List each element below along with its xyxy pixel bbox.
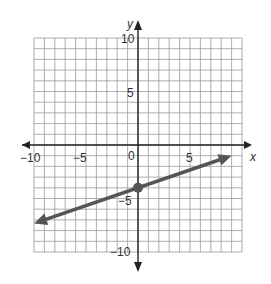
x-tick-neg5: −5: [73, 151, 87, 165]
x-axis-label: x: [249, 150, 257, 164]
y-intercept-point: [133, 183, 143, 193]
x-tick-5: 5: [186, 151, 193, 165]
y-tick-neg5: −5: [118, 194, 132, 208]
plotted-line: [44, 159, 221, 220]
x-axis-left-arrow-icon: [22, 141, 30, 149]
y-axis-down-arrow-icon: [134, 262, 142, 272]
line-right-arrow-icon: [217, 154, 231, 165]
y-tick-10: 10: [121, 32, 135, 46]
y-tick-5: 5: [127, 86, 134, 100]
y-axis-up-arrow-icon: [134, 20, 142, 30]
line-left-arrow-icon: [34, 214, 48, 225]
y-axis-label: y: [126, 17, 134, 31]
x-tick-neg10: −10: [20, 151, 41, 165]
coordinate-plane: −10 −5 0 5 10 5 −5 −10 x y: [0, 0, 271, 284]
origin-label: 0: [128, 149, 135, 163]
y-tick-neg10: −10: [110, 245, 131, 259]
